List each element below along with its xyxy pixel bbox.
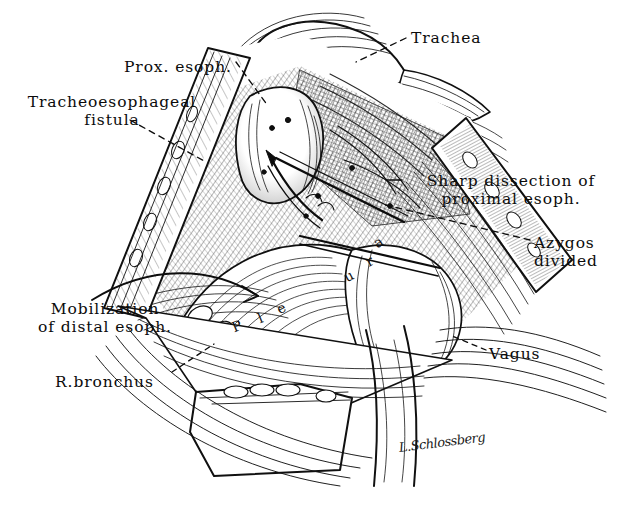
label-azygos-divided: Azygos divided	[534, 234, 598, 271]
leader-azygos-divided	[382, 204, 530, 240]
label-trachea: Trachea	[411, 29, 481, 47]
leader-lines	[0, 0, 618, 505]
leader-trachea	[356, 38, 406, 62]
leader-mobilization-arrowhead	[242, 286, 258, 302]
leader-prox-esoph	[236, 62, 268, 106]
label-prox-esoph: Prox. esoph.	[124, 58, 232, 76]
leader-r-bronchus	[172, 344, 214, 372]
surgical-illustration-figure: Trachea Prox. esoph. Tracheoesophageal f…	[0, 0, 618, 505]
label-tracheoesophageal-fistula: Tracheoesophageal fistula	[12, 93, 212, 130]
leader-mobilization-arrow	[92, 273, 258, 300]
label-vagus: Vagus	[489, 345, 540, 363]
label-r-bronchus: R.bronchus	[55, 373, 154, 391]
label-sharp-dissection: Sharp dissection of proximal esoph.	[404, 172, 618, 209]
leader-vagus	[452, 336, 486, 350]
label-mobilization-distal-esoph: Mobilization of distal esoph.	[19, 300, 191, 337]
